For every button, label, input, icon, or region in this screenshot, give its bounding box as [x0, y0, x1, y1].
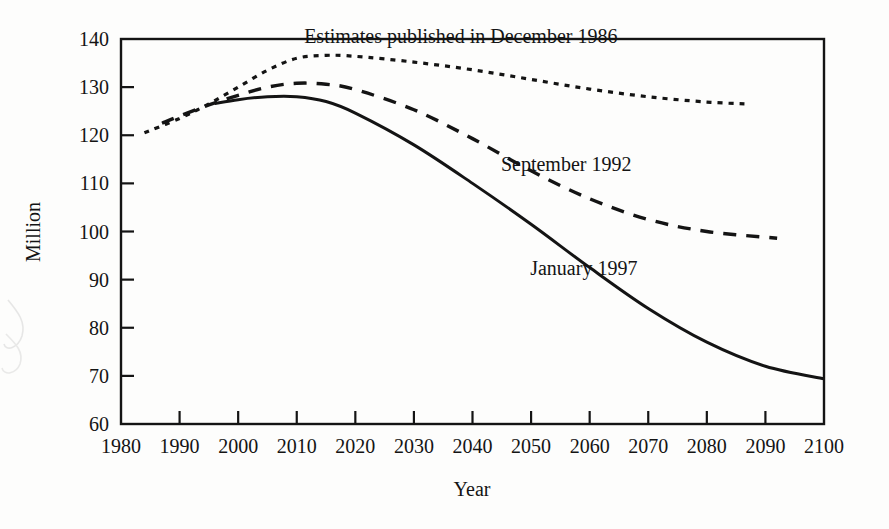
x-tick-label: 2060	[570, 435, 610, 457]
y-tick-label: 100	[79, 221, 109, 243]
x-tick-label: 2100	[804, 435, 844, 457]
scan-smudge	[2, 300, 23, 373]
x-axis-ticks	[180, 411, 766, 424]
y-axis-tick-labels: 60708090100110120130140	[79, 28, 109, 435]
x-tick-label: 2040	[453, 435, 493, 457]
x-tick-label: 2080	[687, 435, 727, 457]
x-tick-label: 2070	[628, 435, 668, 457]
series-line-september-1992	[162, 83, 777, 238]
series-line-december-1986	[144, 55, 747, 133]
y-tick-label: 110	[80, 172, 109, 194]
x-tick-label: 2020	[335, 435, 375, 457]
chart-page: 60708090100110120130140 1980199020002010…	[0, 0, 889, 529]
plot-frame	[121, 39, 824, 424]
x-axis-tick-labels: 1980199020002010202020302040205020602070…	[101, 435, 844, 457]
y-tick-label: 140	[79, 28, 109, 50]
x-tick-label: 2030	[394, 435, 434, 457]
x-tick-label: 2050	[511, 435, 551, 457]
y-tick-label: 60	[89, 413, 109, 435]
x-tick-label: 1980	[101, 435, 141, 457]
y-tick-label: 130	[79, 76, 109, 98]
x-axis-title: Year	[454, 478, 491, 500]
annotation-january-1997: January 1997	[530, 257, 637, 280]
x-tick-label: 1990	[160, 435, 200, 457]
y-axis-title: Million	[22, 202, 44, 262]
series-layer	[144, 55, 824, 379]
series-line-january-1997	[215, 96, 824, 378]
x-tick-label: 2000	[218, 435, 258, 457]
population-projection-chart: 60708090100110120130140 1980199020002010…	[0, 0, 889, 529]
y-axis-ticks	[121, 87, 134, 376]
annotation-september-1992: September 1992	[501, 153, 632, 176]
annotation-december-1986: Estimates published in December 1986	[304, 25, 617, 48]
x-tick-label: 2090	[745, 435, 785, 457]
x-tick-label: 2010	[277, 435, 317, 457]
y-tick-label: 80	[89, 317, 109, 339]
y-tick-label: 90	[89, 269, 109, 291]
y-tick-label: 70	[89, 365, 109, 387]
y-tick-label: 120	[79, 124, 109, 146]
